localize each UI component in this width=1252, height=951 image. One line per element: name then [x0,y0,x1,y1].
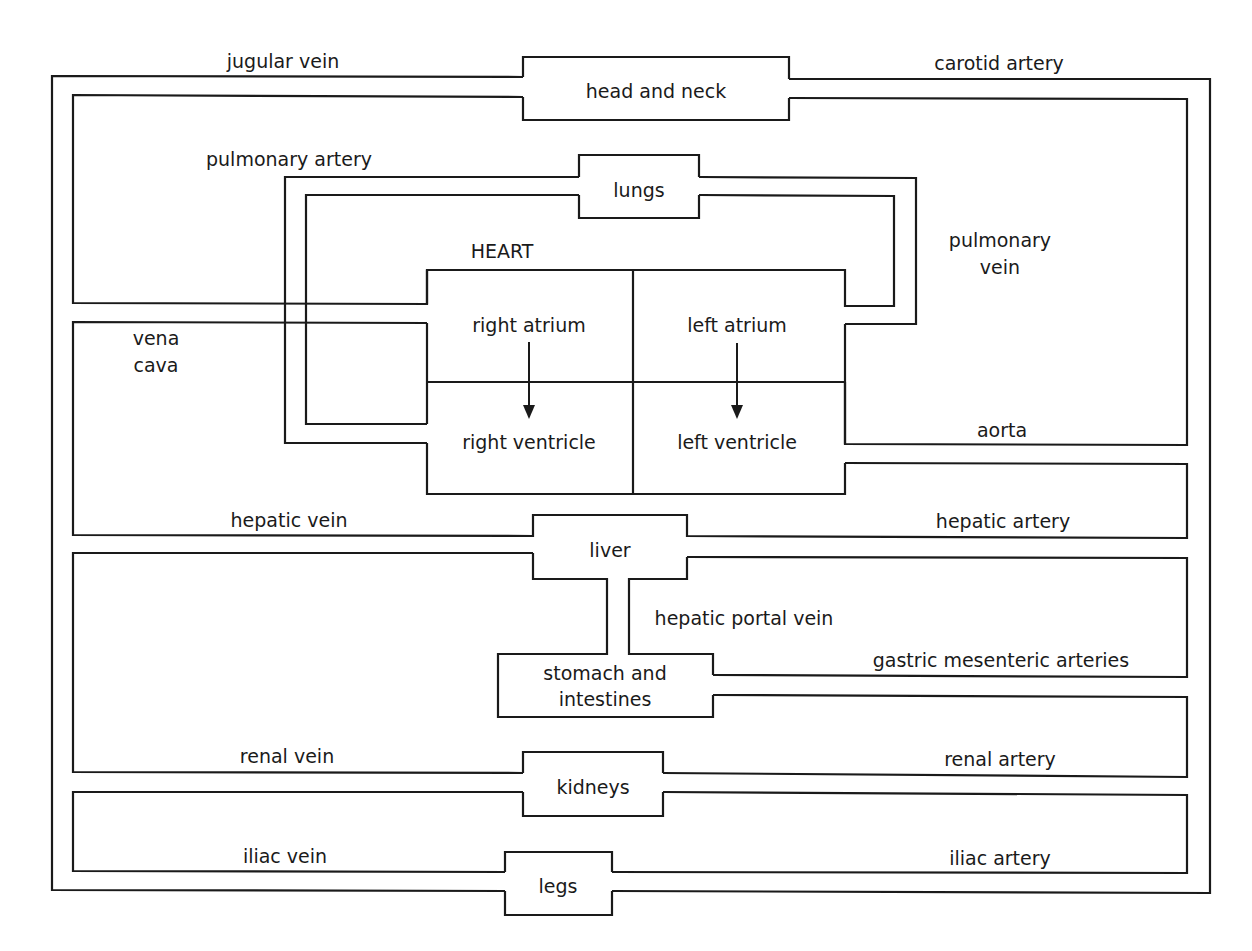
organ-label-kidneys: kidneys [556,776,629,798]
organ-label-lungs: lungs [613,179,664,201]
renal-artery-pipe [663,695,1187,777]
organ-label-legs: legs [539,875,578,897]
vessel-label-pulmonary-vein-line1: pulmonary [949,229,1051,251]
vessel-label-renal-artery: renal artery [944,748,1056,770]
pulmonary-artery-inner-pipe [306,195,579,424]
organ-label-heart: HEART [471,240,534,262]
vessel-label-carotid-artery: carotid artery [934,52,1064,74]
circulatory-diagram: head and neck lungs HEART liver stomach … [0,0,1252,951]
vessel-label-pulmonary-artery: pulmonary artery [206,148,372,170]
pulmonary-vein-inner-pipe [633,195,894,306]
chamber-label-right-ventricle: right ventricle [462,431,596,453]
heart [427,270,845,494]
vessel-label-hepatic-portal-vein: hepatic portal vein [655,607,834,629]
carotid-artery-outer-pipe [612,79,1210,893]
pulmonary-vein-outer-pipe [699,177,916,324]
lungs-loop [285,155,916,443]
chamber-label-left-atrium: left atrium [687,314,787,336]
pulmonary-artery-outer-pipe [285,177,579,443]
organ-label-liver: liver [589,539,630,561]
vessel-label-gastric-mesenteric-arteries: gastric mesenteric arteries [873,649,1129,671]
organ-label-head-and-neck: head and neck [586,80,726,102]
vessel-label-vena-cava-line2: cava [134,354,179,376]
right-flow-arrow-icon [523,405,535,419]
vessel-label-hepatic-artery: hepatic artery [936,510,1070,532]
left-flow-arrow-icon [731,405,743,419]
vessel-label-iliac-vein: iliac vein [243,845,327,867]
organ-label-stomach-line1: stomach and [543,662,666,684]
head-neck-loop [73,57,1187,445]
jugular-vein-outer-pipe [52,76,523,891]
vessel-label-renal-vein: renal vein [240,745,334,767]
vessel-label-hepatic-vein: hepatic vein [231,509,348,531]
chamber-label-right-atrium: right atrium [472,314,585,336]
vessel-label-aorta: aorta [977,419,1027,441]
jugular-vein-inner-pipe [73,95,633,304]
vessel-label-pulmonary-vein-line2: vein [980,256,1020,278]
iliac-artery-pipe [612,792,1187,873]
vessel-label-vena-cava-line1: vena [133,327,180,349]
vessel-label-iliac-artery: iliac artery [949,847,1051,869]
organ-label-stomach-line2: intestines [559,688,652,710]
vessel-label-jugular-vein: jugular vein [226,50,339,72]
chamber-label-left-ventricle: left ventricle [677,431,797,453]
hepatic-vein-lower-pipe [73,553,533,773]
